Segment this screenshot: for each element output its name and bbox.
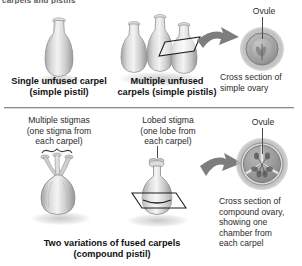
ovule-label-top: Ovule [235, 6, 293, 17]
multiple-stigmas-illustration [30, 148, 94, 226]
multiple-stigmas-label: Multiple stigmas (one stigma from each c… [6, 115, 112, 147]
lobed-stigma-illustration [124, 156, 194, 228]
multiple-unfused-carpels-caption: Multiple unfused carpels (simple pistils… [113, 76, 221, 98]
cut-plane [132, 193, 186, 208]
fused-carpels-caption: Two variations of fused carpels (compoun… [14, 238, 210, 260]
carpel-pistil-diagram: carpels and pistils Single unfused carpe… [0, 0, 302, 266]
curved-arrow-icon-top [195, 26, 241, 60]
ovule-label-bottom: Ovule [234, 117, 292, 128]
lobed-stigma-label: Lobed stigma (one lobe from each carpel) [118, 115, 218, 147]
single-unfused-carpel-caption: Single unfused carpel (simple pistil) [0, 76, 118, 98]
fused-carpel-multi-stigma-shape [30, 148, 94, 226]
bracket [42, 149, 72, 153]
simple-ovary-caption: Cross section of simple ovary [220, 72, 302, 93]
section-divider [4, 107, 294, 109]
page-title-sliver: carpels and pistils [2, 0, 122, 4]
ovule-leader-line-bottom [262, 128, 263, 154]
ovule-leader-line-top [262, 17, 263, 39]
compound-ovary-caption: Cross section of compound ovary, showing… [219, 196, 302, 249]
lobed-stigma-shape [124, 156, 194, 228]
